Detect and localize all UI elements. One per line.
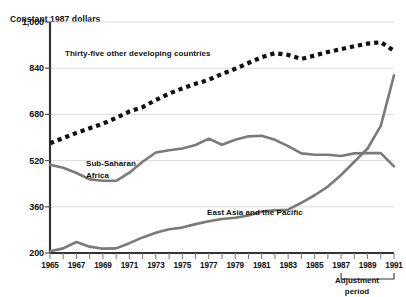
x-tick-label: 1981 [253, 261, 270, 270]
y-tick-label: 360 [0, 202, 44, 212]
x-tick-label: 1973 [147, 261, 164, 270]
x-tick-label: 1991 [385, 261, 402, 270]
series-label-2: East Asia and the Pacific [207, 207, 303, 219]
adjustment-period-label: Adjustment period [335, 275, 379, 297]
x-tick-label: 1989 [359, 261, 376, 270]
series-label-0: Thirty-five other developing countries [65, 48, 210, 60]
series-label-1: Sub-Saharan Africa [86, 158, 136, 182]
x-tick-label: 1975 [174, 261, 191, 270]
data-series-group [50, 42, 394, 251]
x-tick-label: 1965 [41, 261, 58, 270]
x-tick-label: 1983 [279, 261, 296, 270]
x-tick-label: 1971 [121, 261, 138, 270]
y-tick-label: 200 [0, 248, 44, 258]
x-tick-label: 1977 [200, 261, 217, 270]
x-tick-label: 1985 [306, 261, 323, 270]
y-tick-label: 840 [0, 63, 44, 73]
y-tick-label: 520 [0, 156, 44, 166]
x-tick-label: 1979 [227, 261, 244, 270]
x-tick-label: 1969 [94, 261, 111, 270]
x-tick-label: 1967 [68, 261, 85, 270]
y-tick-label: 680 [0, 109, 44, 119]
x-tick-label: 1987 [332, 261, 349, 270]
y-tick-label: 1,000 [0, 17, 44, 27]
